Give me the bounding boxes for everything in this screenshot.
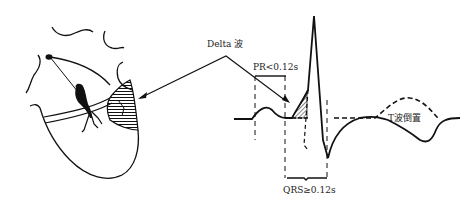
t-wave-label: T波倒置: [388, 112, 421, 123]
p-wave: [234, 108, 292, 119]
wpw-diagram: Delta 波 PR<0.12s QRS≥0.12s T波倒置: [0, 0, 472, 209]
delta-wave-label: Delta 波: [207, 38, 243, 49]
av-ring: [44, 98, 110, 117]
qrs-duration-label: QRS≥0.12s: [283, 185, 336, 195]
av-ring-lower: [45, 103, 112, 123]
arrowhead-heart: [138, 92, 147, 99]
ecg-tracing: [234, 16, 460, 180]
bundle-branches: [82, 112, 102, 132]
preexcited-region: [107, 80, 138, 130]
vessel-outline-left: [26, 55, 40, 93]
qrs-bracket: [287, 178, 327, 180]
qrs-complex: [292, 16, 328, 158]
sa-node: [46, 54, 53, 60]
delta-wave-shading: [292, 94, 307, 118]
st-t-segment: [328, 117, 460, 158]
normal-st-dashed: [334, 98, 438, 118]
pr-interval-label: PR<0.12s: [253, 62, 298, 72]
vessel-outline-right: [104, 31, 124, 49]
arrowhead-delta: [282, 95, 290, 103]
internodal-path: [50, 57, 110, 85]
vessel-outline-top: [52, 27, 93, 35]
